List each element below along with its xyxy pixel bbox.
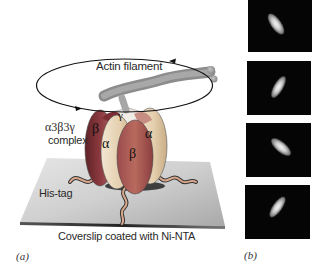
his-tag-label: His-tag — [39, 188, 72, 199]
complex-formula-label: α3β3γ — [45, 121, 75, 133]
micrograph-frame-1 — [248, 0, 312, 52]
subunit-beta-front-label: β — [129, 147, 136, 161]
subunit-gamma-label: γ — [118, 110, 123, 121]
complex-label: complex — [48, 135, 88, 146]
panel-b-letter: (b) — [244, 250, 257, 261]
filament-spot — [267, 195, 288, 220]
panel-a-letter: (a) — [16, 251, 29, 262]
micrograph-frame-2 — [247, 61, 311, 115]
filament-spot — [269, 74, 289, 99]
actin-filament-label: Actin filament — [96, 61, 162, 73]
subunit-alpha-left-label: α — [102, 137, 109, 151]
filament-spot — [265, 11, 287, 36]
micrograph-frame-4 — [245, 185, 310, 239]
filament-spot — [269, 135, 294, 158]
subunit-beta-left-label: β — [92, 122, 99, 136]
coverslip-label: Coverslip coated with Ni-NTA — [58, 231, 195, 242]
arrow-head-bottom-icon — [75, 106, 82, 111]
micrograph-frame-3 — [246, 123, 311, 177]
figure: Actin filament α3β3γ complex γ β α β α H… — [0, 0, 328, 269]
subunit-alpha-right-label: α — [145, 127, 152, 141]
